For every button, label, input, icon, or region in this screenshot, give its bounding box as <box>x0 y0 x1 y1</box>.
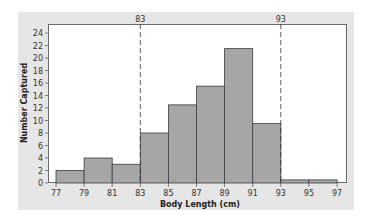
y-tick-label: 0 <box>38 179 43 188</box>
y-tick-label: 2 <box>38 167 43 176</box>
histogram-bar <box>253 124 281 183</box>
y-tick-label: 16 <box>33 79 43 88</box>
y-tick-label: 24 <box>33 29 43 38</box>
x-tick-label: 89 <box>220 189 230 198</box>
y-axis-title: Number Captured <box>20 63 29 143</box>
y-tick-label: 6 <box>38 142 43 151</box>
x-tick-label: 81 <box>107 189 117 198</box>
reference-line-label: 93 <box>276 15 286 24</box>
histogram-bar <box>56 171 84 184</box>
y-tick-label: 4 <box>38 154 43 163</box>
histogram-bar <box>309 180 337 183</box>
reference-line-label: 83 <box>135 15 145 24</box>
histogram-bar <box>140 133 168 183</box>
histogram-bar <box>197 86 225 183</box>
x-tick-label: 85 <box>163 189 173 198</box>
x-tick-label: 93 <box>276 189 286 198</box>
y-tick-label: 14 <box>33 92 43 101</box>
x-tick-label: 95 <box>304 189 314 198</box>
x-tick-label: 87 <box>191 189 201 198</box>
y-tick-label: 18 <box>33 67 43 76</box>
histogram-bar <box>84 158 112 183</box>
x-tick-label: 83 <box>135 189 145 198</box>
x-tick-label: 77 <box>51 189 61 198</box>
histogram-bar <box>225 49 253 183</box>
histogram-bar <box>112 164 140 183</box>
y-tick-label: 8 <box>38 129 43 138</box>
x-tick-label: 91 <box>248 189 258 198</box>
y-tick-label: 12 <box>33 104 43 113</box>
y-tick-label: 20 <box>33 54 43 63</box>
histogram-chart: 0246810121416182022247779818385878991939… <box>0 0 367 223</box>
x-tick-label: 79 <box>79 189 89 198</box>
histogram-bar <box>281 180 309 183</box>
y-tick-label: 22 <box>33 42 43 51</box>
x-axis-title: Body Length (cm) <box>160 200 240 209</box>
x-tick-label: 97 <box>332 189 342 198</box>
y-tick-label: 10 <box>33 117 43 126</box>
histogram-bar <box>168 105 196 183</box>
